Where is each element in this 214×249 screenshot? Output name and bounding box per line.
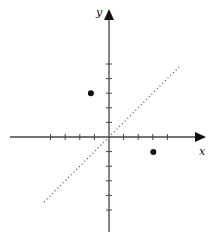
- plotted-points: [88, 90, 156, 155]
- x-axis: [10, 132, 206, 142]
- x-axis-arrow-icon: [195, 132, 206, 142]
- y-axis-arrow-icon: [104, 9, 114, 20]
- coordinate-plane: y x: [0, 0, 214, 249]
- dotted-line-y-equals-x: [44, 67, 179, 202]
- point-upper-left: [88, 90, 94, 96]
- point-lower-right: [150, 149, 156, 155]
- x-axis-label: x: [199, 145, 206, 158]
- y-axis-label: y: [95, 6, 103, 19]
- y-axis: [104, 9, 114, 232]
